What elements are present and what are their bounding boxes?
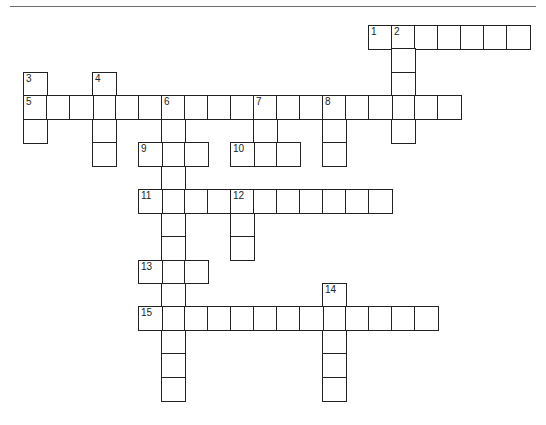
crossword-cell[interactable] xyxy=(322,119,347,144)
crossword-cell[interactable] xyxy=(184,260,209,285)
crossword-cell[interactable]: 8 xyxy=(322,95,347,120)
crossword-cell[interactable] xyxy=(391,95,416,120)
crossword-cell[interactable] xyxy=(391,306,416,331)
crossword-cell[interactable] xyxy=(345,95,370,120)
crossword-cell[interactable] xyxy=(276,142,301,167)
crossword-cell[interactable] xyxy=(368,95,393,120)
crossword-cell[interactable] xyxy=(161,213,186,238)
crossword-cell[interactable]: 9 xyxy=(138,142,163,167)
crossword-cell[interactable] xyxy=(230,236,255,261)
crossword-cell[interactable] xyxy=(253,142,278,167)
clue-number: 1 xyxy=(371,26,377,37)
crossword-cell[interactable] xyxy=(230,213,255,238)
crossword-cell[interactable] xyxy=(184,95,209,120)
clue-number: 4 xyxy=(95,73,101,84)
crossword-cell[interactable] xyxy=(184,189,209,214)
crossword-cell[interactable]: 11 xyxy=(138,189,163,214)
crossword-cell[interactable] xyxy=(184,306,209,331)
crossword-cell[interactable]: 5 xyxy=(23,95,48,120)
crossword-cell[interactable] xyxy=(322,330,347,355)
crossword-cell[interactable]: 6 xyxy=(161,95,186,120)
crossword-cell[interactable] xyxy=(161,236,186,261)
crossword-cell[interactable] xyxy=(207,306,232,331)
crossword-cell[interactable] xyxy=(437,25,462,50)
crossword-cell[interactable]: 14 xyxy=(322,283,347,308)
crossword-cell[interactable] xyxy=(414,306,439,331)
crossword-cell[interactable] xyxy=(391,48,416,73)
crossword-cell[interactable] xyxy=(253,119,278,144)
crossword-cell[interactable] xyxy=(322,306,347,331)
crossword-cell[interactable] xyxy=(437,95,462,120)
crossword-cell[interactable] xyxy=(161,189,186,214)
crossword-cell[interactable] xyxy=(322,377,347,402)
crossword-cell[interactable] xyxy=(230,306,255,331)
crossword-cell[interactable] xyxy=(276,95,301,120)
crossword-cell[interactable] xyxy=(299,306,324,331)
clue-number: 5 xyxy=(26,96,32,107)
crossword-cell[interactable]: 15 xyxy=(138,306,163,331)
crossword-cell[interactable] xyxy=(483,25,508,50)
crossword-cell[interactable] xyxy=(69,95,94,120)
crossword-cell[interactable] xyxy=(253,189,278,214)
crossword-cell[interactable] xyxy=(391,119,416,144)
clue-number: 15 xyxy=(141,307,152,318)
crossword-cell[interactable] xyxy=(184,142,209,167)
crossword-cell[interactable]: 10 xyxy=(230,142,255,167)
crossword-cell[interactable] xyxy=(276,306,301,331)
crossword-cell[interactable] xyxy=(345,189,370,214)
crossword-cell[interactable]: 3 xyxy=(23,72,48,97)
crossword-cell[interactable] xyxy=(322,353,347,378)
clue-number: 11 xyxy=(141,190,151,201)
crossword-cell[interactable] xyxy=(299,189,324,214)
crossword-cell[interactable] xyxy=(276,189,301,214)
crossword-cell[interactable] xyxy=(207,189,232,214)
clue-number: 13 xyxy=(141,261,152,272)
clue-number: 10 xyxy=(233,143,244,154)
crossword-cell[interactable] xyxy=(23,119,48,144)
crossword-cell[interactable] xyxy=(322,142,347,167)
crossword-cell[interactable] xyxy=(506,25,531,50)
clue-number: 14 xyxy=(325,284,336,295)
crossword-cell[interactable] xyxy=(253,306,278,331)
crossword-cell[interactable] xyxy=(322,189,347,214)
crossword-cell[interactable] xyxy=(46,95,71,120)
crossword-cell[interactable]: 7 xyxy=(253,95,278,120)
clue-number: 8 xyxy=(325,96,331,107)
crossword-cell[interactable] xyxy=(161,330,186,355)
crossword-cell[interactable]: 12 xyxy=(230,189,255,214)
crossword-cell[interactable] xyxy=(92,142,117,167)
clue-number: 7 xyxy=(256,96,262,107)
crossword-cell[interactable] xyxy=(92,95,117,120)
crossword-cell[interactable] xyxy=(299,95,324,120)
crossword-cell[interactable] xyxy=(161,260,186,285)
crossword-cell[interactable]: 1 xyxy=(368,25,393,50)
crossword-cell[interactable] xyxy=(345,306,370,331)
crossword-cell[interactable]: 2 xyxy=(391,25,416,50)
clue-number: 12 xyxy=(233,190,244,201)
crossword-cell[interactable] xyxy=(207,95,232,120)
crossword-cell[interactable] xyxy=(230,95,255,120)
crossword-cell[interactable] xyxy=(161,142,186,167)
crossword-cell[interactable] xyxy=(161,353,186,378)
crossword-cell[interactable] xyxy=(368,306,393,331)
crossword-grid: 123546789101112131415 xyxy=(0,0,546,425)
crossword-cell[interactable] xyxy=(115,95,140,120)
clue-number: 9 xyxy=(141,143,147,154)
clue-number: 3 xyxy=(26,73,32,84)
crossword-cell[interactable] xyxy=(161,283,186,308)
crossword-cell[interactable]: 13 xyxy=(138,260,163,285)
crossword-cell[interactable] xyxy=(138,95,163,120)
crossword-cell[interactable] xyxy=(391,72,416,97)
crossword-cell[interactable] xyxy=(161,377,186,402)
crossword-cell[interactable] xyxy=(161,306,186,331)
crossword-cell[interactable] xyxy=(460,25,485,50)
crossword-cell[interactable] xyxy=(92,119,117,144)
crossword-cell[interactable] xyxy=(368,189,393,214)
crossword-cell[interactable] xyxy=(414,95,439,120)
clue-number: 2 xyxy=(394,26,400,37)
crossword-cell[interactable] xyxy=(414,25,439,50)
crossword-cell[interactable] xyxy=(161,166,186,191)
clue-number: 6 xyxy=(164,96,170,107)
crossword-cell[interactable]: 4 xyxy=(92,72,117,97)
crossword-cell[interactable] xyxy=(161,119,186,144)
